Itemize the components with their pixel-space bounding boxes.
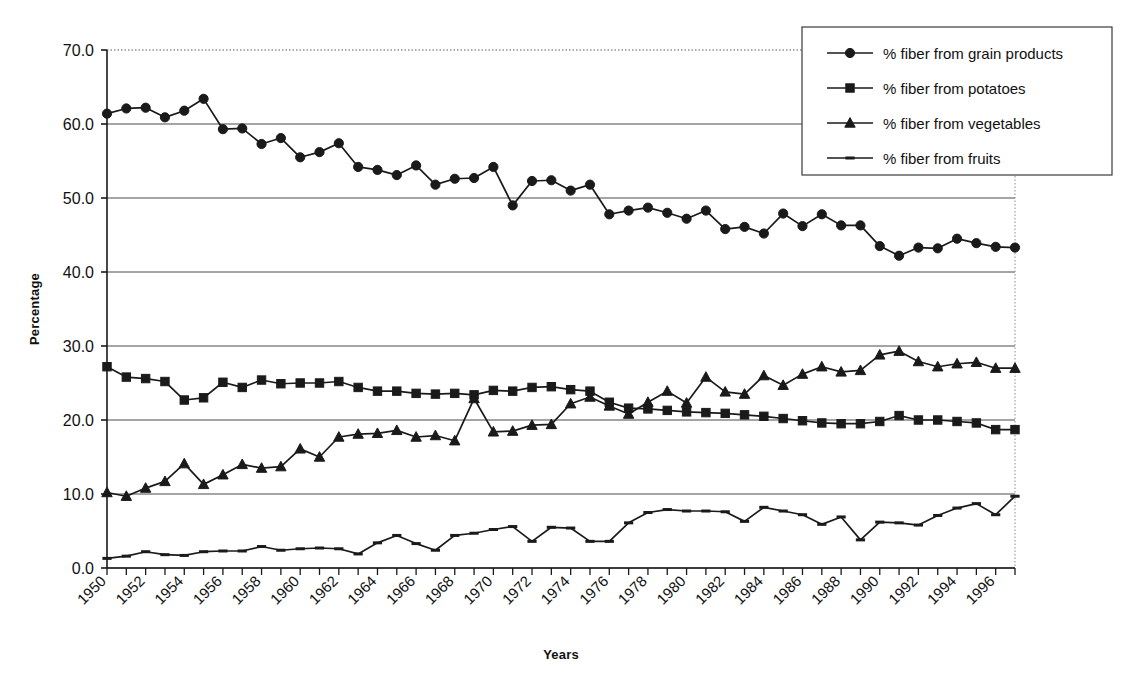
series-marker [701,510,710,513]
series-marker [160,553,169,556]
series-marker [122,104,131,113]
series-marker [315,379,323,387]
series-marker [953,417,961,425]
y-tick-label: 20.0 [63,412,94,429]
series-marker [277,380,285,388]
y-tick-label: 30.0 [63,338,94,355]
series-marker [450,534,459,537]
series-marker [740,222,749,231]
series-marker [469,173,478,182]
series-marker [547,383,555,391]
y-axis-title: Percentage [27,273,42,345]
series-marker [837,420,845,428]
series-marker [296,547,305,550]
series-marker [972,239,981,248]
series-marker [934,416,942,424]
series-marker [1010,243,1019,252]
series-marker [199,394,207,402]
series-marker [238,383,246,391]
legend-item-label: % fiber from vegetables [883,115,1041,132]
series-marker [682,214,691,223]
series-marker [817,210,826,219]
series-marker [856,420,864,428]
series-marker [373,387,381,395]
y-tick-label: 40.0 [63,264,94,281]
series-marker [451,389,459,397]
series-marker [643,203,652,212]
series-marker [663,508,672,511]
series-marker [102,109,111,118]
series-marker [547,176,556,185]
series-marker [585,540,594,543]
series-marker [721,510,730,513]
series-marker [508,201,517,210]
series-marker [431,390,439,398]
series-marker [528,383,536,391]
series-marker [798,417,806,425]
y-tick-label: 0.0 [72,560,94,577]
series-marker [894,521,903,524]
series-marker [199,94,208,103]
series-marker [779,510,788,513]
series-marker [566,385,574,393]
series-marker [605,210,614,219]
legend-marker-dash [845,157,854,160]
series-marker [566,527,575,530]
series-marker [141,103,150,112]
chart-canvas: 0.010.020.030.040.050.060.070.0 19501952… [0,0,1133,679]
legend-marker-square [846,84,854,92]
series-marker [740,520,749,523]
series-marker [663,208,672,217]
series-marker [276,133,285,142]
legend-item-label: % fiber from potatoes [883,80,1026,97]
series-marker [315,547,324,550]
series-marker [779,414,787,422]
series-marker [991,242,1000,251]
series-marker [276,549,285,552]
series-marker [334,139,343,148]
series-marker [450,174,459,183]
series-marker [160,113,169,122]
series-marker [894,251,903,260]
series-marker [759,506,768,509]
series-marker [837,221,846,230]
chart-legend: % fiber from grain products% fiber from … [802,27,1112,175]
series-marker [412,161,421,170]
series-marker [489,386,497,394]
series-marker [701,206,710,215]
series-marker [238,549,247,552]
series-marker [527,540,536,543]
series-marker [663,406,671,414]
series-marker [354,552,363,555]
series-marker [393,387,401,395]
series-marker [392,170,401,179]
series-marker [914,416,922,424]
series-marker [856,221,865,230]
series-marker [489,528,498,531]
series-marker [141,374,149,382]
series-marker [334,547,343,550]
legend-item-label: % fiber from fruits [883,150,1001,167]
series-marker [412,389,420,397]
legend-item-label: % fiber from grain products [883,45,1063,62]
series-marker [412,542,421,545]
series-marker [875,521,884,524]
series-marker [817,523,826,526]
y-tick-label: 10.0 [63,486,94,503]
series-marker [798,222,807,231]
x-axis-title: Years [543,647,579,662]
series-marker [257,376,265,384]
series-marker [373,541,382,544]
series-marker [508,525,517,528]
series-marker [296,153,305,162]
y-tick-label: 60.0 [63,116,94,133]
series-marker [199,550,208,553]
series-marker [431,549,440,552]
series-marker [257,139,266,148]
series-marker [257,545,266,548]
series-marker [702,408,710,416]
series-marker [218,549,227,552]
series-marker [392,534,401,537]
series-marker [952,234,961,243]
series-marker [354,383,362,391]
